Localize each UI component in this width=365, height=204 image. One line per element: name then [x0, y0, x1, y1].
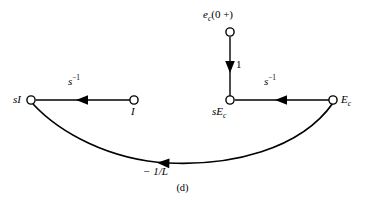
edge-Ec-to-sI-curve	[33, 103, 333, 163]
node-label-sEc: sEc	[212, 106, 226, 120]
edge-label-sI-to-I-gain: s−1	[68, 74, 80, 87]
figure-caption: (d)	[0, 182, 365, 193]
figure-canvas: sI I ec(0 +) sEc Ec s−1 s−1 1 − 1/L (d)	[0, 0, 365, 204]
edge-label-Ec-to-sI-gain: − 1/L	[143, 166, 168, 177]
edge-sI-to-I-arrowhead	[76, 95, 88, 105]
node-label-sEc-subscript: c	[223, 111, 226, 120]
signal-flow-graph	[0, 0, 365, 204]
node-label-I: I	[131, 106, 135, 117]
node-label-sI: sI	[13, 94, 21, 105]
node-label-ec-initial: ec(0 +)	[203, 9, 233, 23]
node-label-Ec-subscript: c	[348, 99, 351, 108]
node-I-circle	[130, 96, 138, 104]
edge-label-sEc-to-Ec-gain: s−1	[264, 74, 276, 87]
edge-label-ec0-to-sEc-gain: 1	[236, 59, 242, 70]
node-label-Ec: Ec	[341, 94, 351, 108]
edge-label-sI-to-I-exponent: −1	[72, 73, 80, 82]
node-ec0-circle	[226, 28, 234, 36]
node-Ec-circle	[329, 96, 337, 104]
edge-ec0-to-sEc-arrowhead	[225, 61, 235, 73]
node-sEc-circle	[226, 96, 234, 104]
node-sI-circle	[27, 96, 35, 104]
node-label-ec-argument: (0 +)	[211, 8, 233, 20]
edge-label-sEc-to-Ec-exponent: −1	[268, 73, 276, 82]
edge-sEc-to-Ec-arrowhead	[275, 95, 287, 105]
